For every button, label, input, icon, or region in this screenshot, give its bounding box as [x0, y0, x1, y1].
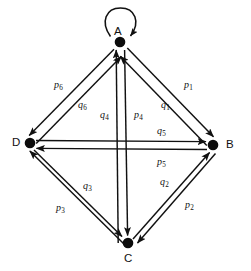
edge-label-q3: q3 [83, 181, 92, 191]
edge-label-p3-sub: 3 [61, 207, 65, 215]
node-dot-b[interactable] [208, 140, 219, 151]
node-dot-a[interactable] [115, 37, 126, 48]
edge-line-p1 [127, 48, 213, 137]
edge-label-q5: q5 [157, 126, 166, 136]
edge-line-q2 [133, 153, 210, 240]
edge-label-q6-sub: 6 [83, 104, 87, 112]
edge-label-p5-sub: 5 [162, 161, 166, 169]
node-label-b: B [226, 139, 234, 151]
edge-label-p3: p3 [56, 203, 65, 213]
edge-label-p4-sub: 4 [139, 114, 143, 122]
edge-label-p4: p4 [134, 110, 143, 120]
edge-label-p1: p1 [184, 80, 193, 90]
node-dot-c[interactable] [123, 238, 134, 249]
edge-label-q4: q4 [100, 110, 109, 120]
edge-label-q4-sub: 4 [105, 114, 109, 122]
edge-line-p3 [30, 151, 124, 244]
node-label-c: C [124, 253, 132, 265]
edge-line-q3 [34, 150, 122, 237]
edge-label-p6: p6 [54, 80, 63, 90]
graph-canvas [0, 0, 251, 271]
edge-label-p6-sub: 6 [59, 84, 63, 92]
edge-label-q5-sub: 5 [162, 130, 166, 138]
edge-label-q3-sub: 3 [88, 185, 92, 193]
edge-line-q4 [116, 50, 118, 243]
edge-label-p1-sub: 1 [189, 84, 193, 92]
directed-graph-diagram: A B C D p1 q1 p2 q2 p3 q3 p4 q4 q5 p5 p6… [0, 0, 251, 271]
edge-label-p2: p2 [185, 200, 194, 210]
node-label-d: D [12, 137, 20, 149]
edge-label-q1: q1 [161, 100, 170, 110]
edge-line-p2 [138, 154, 216, 244]
edge-line-p4 [125, 50, 128, 236]
edge-line-p6 [29, 49, 114, 135]
edge-label-q2-sub: 2 [165, 181, 169, 189]
edge-label-q6: q6 [78, 100, 87, 110]
edge-label-p5: p5 [157, 157, 166, 167]
node-dot-d[interactable] [25, 138, 36, 149]
edge-line-q5 [36, 141, 206, 142]
edge-label-p2-sub: 2 [190, 204, 194, 212]
edge-label-q2: q2 [160, 177, 169, 187]
edge-line-p5 [37, 148, 208, 149]
node-label-a: A [114, 26, 122, 38]
edge-label-q1-sub: 1 [166, 104, 170, 112]
